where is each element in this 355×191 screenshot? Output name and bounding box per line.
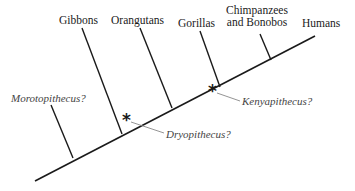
fossil-kenyapithecus: Kenyapithecus? [242, 95, 312, 107]
taxon-chimpanzees-bonobos: Chimpanzees and Bonobos [226, 4, 288, 28]
taxon-gibbons: Gibbons [59, 14, 98, 26]
taxon-gorillas: Gorillas [178, 17, 215, 29]
branch-gorillas [200, 31, 220, 87]
branch-chimpanzees [260, 34, 271, 60]
asterisk-kenyapithecus-icon: * [208, 85, 217, 97]
fossil-dryopithecus: Dryopithecus? [166, 128, 231, 140]
branch-orangutans [140, 28, 172, 108]
fossil-morotopithecus: Morotopithecus? [11, 92, 86, 104]
leader-kenyapithecus [217, 93, 240, 101]
branch-gibbons [82, 28, 122, 134]
taxon-orangutans: Orangutans [111, 14, 164, 26]
leader-dryopithecus [131, 122, 164, 133]
asterisk-dryopithecus-icon: * [122, 114, 131, 126]
branch-morotopithecus [51, 105, 73, 158]
taxon-chimpanzees-line1: Chimpanzees [226, 4, 288, 16]
taxon-humans: Humans [302, 17, 340, 29]
taxon-chimpanzees-line2: and Bonobos [226, 16, 288, 28]
main-trunk [35, 36, 315, 181]
